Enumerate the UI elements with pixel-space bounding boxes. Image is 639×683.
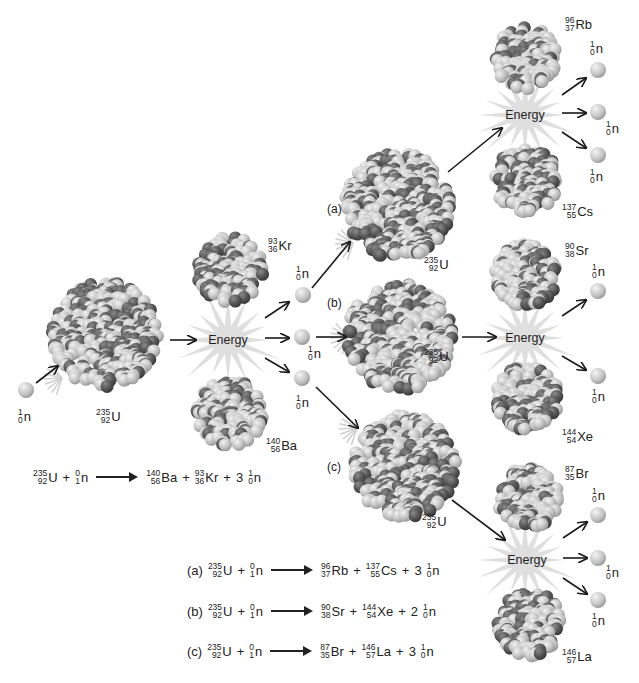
neutron-b-1 (590, 283, 606, 299)
element-symbol: Br (331, 644, 344, 659)
element-symbol: n (255, 644, 262, 659)
element-symbol: Ba (161, 470, 177, 485)
element-symbol: n (596, 42, 603, 55)
neutron-stage1-3 (294, 370, 310, 386)
incoming-neutron (18, 382, 34, 398)
plus-sign: + (237, 644, 245, 659)
atomic-number: 57 (567, 656, 576, 664)
atomic-number: 0 (308, 353, 313, 361)
product-2: 14657La (361, 643, 391, 659)
element-symbol: n (598, 614, 605, 627)
neutron-a-3 (590, 147, 606, 163)
barium-nucleus (191, 376, 269, 451)
neutron-coefficient: 3 (409, 644, 416, 659)
neutron-stage1-2 (294, 329, 310, 345)
neutron-c-2 (590, 550, 606, 566)
atomic-number: 92 (429, 264, 438, 272)
label-neutron-b-2: 10n (592, 388, 605, 404)
element-symbol: U (439, 350, 448, 363)
label-neutron-c-2-isotope: 10n (606, 564, 619, 580)
element-symbol: n (302, 396, 309, 409)
label-neutron-c-2: 10n (606, 564, 619, 580)
atomic-number: 57 (366, 651, 375, 659)
branch-label-c: (c) (327, 460, 341, 474)
atomic-number: 56 (151, 477, 160, 485)
element-symbol: Xe (577, 430, 593, 443)
atomic-number: 92 (38, 477, 47, 485)
atomic-number: 0 (427, 570, 432, 578)
element-symbol: n (596, 170, 603, 183)
reactant-uranium: 23592U (208, 562, 233, 578)
atomic-number: 0 (248, 477, 253, 485)
reactant-uranium: 23592U (33, 469, 58, 485)
plus-sign: + (237, 604, 245, 619)
reactant-neutron: 01n (250, 562, 263, 578)
label-barium: 14056Ba (266, 437, 297, 453)
product-1: 8735Br (320, 643, 343, 659)
label-neutron-a-2-isotope: 10n (606, 120, 619, 136)
element-symbol: n (256, 604, 263, 619)
atomic-number: 54 (567, 436, 576, 444)
label-neutron-b-1: 10n (592, 263, 605, 279)
label-cesium: 13755Cs (562, 203, 593, 219)
element-symbol: n (429, 604, 436, 619)
element-symbol: n (612, 122, 619, 135)
label-neutron-a-2: 10n (606, 120, 619, 136)
label-neutron-c-1: 10n (592, 487, 605, 503)
label-xenon: 14454Xe (562, 428, 593, 444)
element-symbol: n (598, 265, 605, 278)
lanthanum-nucleus (492, 588, 567, 662)
product-2: 14454Xe (362, 603, 393, 619)
energy-label-stage1: Energy (208, 333, 248, 347)
uranium-nucleus-a (339, 148, 456, 262)
label-incoming-neutron: 10n (18, 408, 31, 424)
equation-a: (a)23592U+01n9637Rb+13755Cs+310n (182, 562, 440, 578)
label-neutron-s1-2: 10n (308, 345, 321, 361)
atomic-number: 0 (296, 273, 301, 281)
neutron-b-2 (590, 368, 606, 384)
label-uranium-a-isotope: 23592U (424, 256, 449, 272)
energy-label-a: Energy (505, 108, 545, 122)
label-neutron-a-1-isotope: 10n (590, 40, 603, 56)
product-neutrons: 10n (427, 562, 440, 578)
xenon-nucleus (491, 362, 563, 436)
reactant-uranium: 23592U (208, 603, 233, 619)
atomic-number: 92 (101, 416, 110, 424)
branch-label-b: (b) (327, 296, 342, 310)
arrow-a-n3 (562, 132, 586, 148)
neutron-a-1 (590, 62, 606, 78)
element-symbol: U (48, 470, 57, 485)
label-strontium-isotope: 9038Sr (565, 242, 588, 258)
atomic-number: 0 (592, 620, 597, 628)
element-symbol: Cs (381, 563, 397, 578)
product-2: 9336Kr (195, 469, 218, 485)
label-uranium-c: 23592U (422, 513, 447, 529)
arrow-neutron-to-uranium-a (312, 242, 350, 288)
element-symbol: n (598, 390, 605, 403)
label-barium-isotope: 14056Ba (266, 437, 297, 453)
arrow-uranium-a-to-energy (448, 128, 502, 172)
label-uranium-c-isotope: 23592U (422, 513, 447, 529)
equation-b: (b)23592U+01n9038Sr+14454Xe+210n (182, 603, 436, 619)
neutron-stage1-1 (295, 287, 311, 303)
label-lanthanum-isotope: 14657La (562, 648, 592, 664)
label-rubidium: 9637Rb (565, 16, 592, 32)
reaction-arrow-icon (271, 565, 313, 575)
label-xenon-isotope: 14454Xe (562, 428, 593, 444)
uranium-nucleus-initial (46, 277, 164, 393)
product-2: 13755Cs (366, 562, 397, 578)
atomic-number: 55 (567, 211, 576, 219)
label-rubidium-isotope: 9637Rb (565, 16, 592, 32)
atomic-number: 38 (565, 250, 574, 258)
atomic-number: 0 (18, 416, 23, 424)
product-neutrons: 10n (248, 469, 261, 485)
element-symbol: U (223, 604, 232, 619)
element-symbol: n (302, 267, 309, 280)
uranium-nucleus-b (342, 279, 458, 396)
branch-label-a: (a) (327, 202, 342, 216)
label-krypton-isotope: 9336Kr (268, 237, 291, 253)
element-symbol: U (439, 258, 448, 271)
atomic-number: 92 (427, 521, 436, 529)
plus-sign: + (237, 563, 245, 578)
element-symbol: n (598, 489, 605, 502)
